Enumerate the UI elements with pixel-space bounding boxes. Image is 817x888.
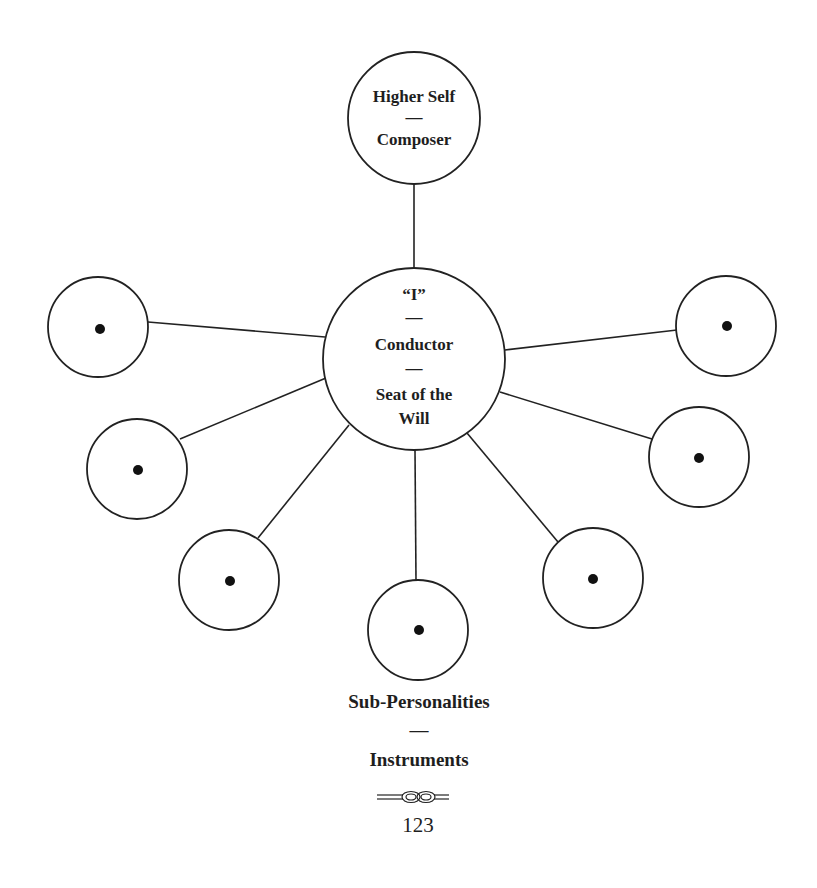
i-label: “I” (402, 286, 426, 303)
connector-bottom (415, 450, 416, 580)
conductor-dash: — (406, 360, 423, 377)
sub-personalities-label: Sub-Personalities (348, 692, 489, 711)
dot-icon (694, 453, 704, 463)
will-label: Will (399, 410, 430, 427)
dot-icon (588, 574, 598, 584)
connector-right-middle (500, 392, 652, 439)
higher-self-dash: — (406, 109, 423, 126)
dot-icon (414, 625, 424, 635)
connector-left-top (148, 322, 325, 337)
instruments-label: Instruments (369, 750, 468, 769)
connector-right-top (505, 330, 677, 350)
knot-ornament-icon (377, 792, 449, 803)
higher-self-label: Higher Self (373, 88, 455, 105)
page-number: 123 (402, 815, 434, 836)
caption-dash: — (410, 720, 429, 739)
i-dash: — (406, 309, 423, 326)
seat-of-the-label: Seat of the (376, 386, 452, 403)
composer-label: Composer (377, 131, 452, 148)
connector-left-middle (180, 378, 326, 439)
connector-left-bottom (258, 425, 349, 538)
conductor-label: Conductor (375, 336, 453, 353)
connector-right-bottom (467, 433, 558, 542)
dot-icon (225, 576, 235, 586)
dot-icon (95, 324, 105, 334)
dot-icon (722, 321, 732, 331)
dot-icon (133, 465, 143, 475)
